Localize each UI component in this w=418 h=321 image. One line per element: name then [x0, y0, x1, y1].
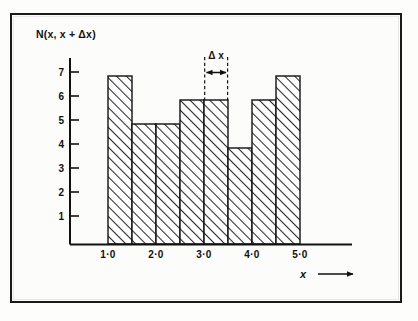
- bar: [108, 76, 132, 244]
- x-tick-label: 1·0: [88, 249, 128, 260]
- y-tick-label: 4: [48, 139, 64, 150]
- x-tick-label: 5·0: [280, 249, 320, 260]
- x-tick-label: 2·0: [136, 249, 176, 260]
- bar: [204, 100, 228, 244]
- bar: [276, 76, 300, 244]
- x-axis-label-text: x: [300, 268, 306, 280]
- x-tick-label: 4·0: [232, 249, 272, 260]
- plot-canvas: [0, 0, 418, 321]
- y-tick-label: 2: [48, 187, 64, 198]
- x-axis-label: x: [300, 268, 306, 280]
- y-tick-label: 3: [48, 163, 64, 174]
- delta-x-label: Δ x: [208, 50, 224, 61]
- y-tick-label: 5: [48, 115, 64, 126]
- y-tick-label: 1: [48, 211, 64, 222]
- bar: [156, 124, 180, 244]
- bar: [180, 100, 204, 244]
- x-tick-label: 3·0: [184, 249, 224, 260]
- bar: [132, 124, 156, 244]
- bars-group: [108, 76, 300, 244]
- y-tick-label: 6: [48, 91, 64, 102]
- bar: [252, 100, 276, 244]
- y-tick-label: 7: [48, 67, 64, 78]
- delta-x-annotation: [205, 57, 228, 100]
- bar: [228, 148, 252, 244]
- figure-root: N(x, x + Δx): [0, 0, 418, 321]
